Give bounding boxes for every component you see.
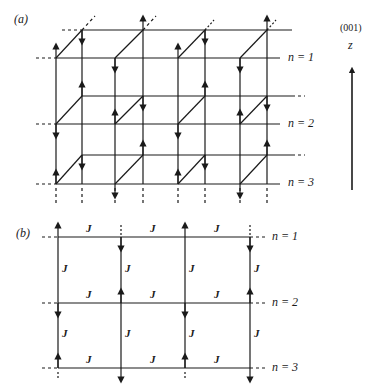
coupling-label: J	[254, 327, 260, 339]
panel-a-layer-2-label: n = 2	[288, 116, 314, 131]
panel-a-lattice	[36, 16, 305, 205]
coupling-label: J	[62, 262, 68, 274]
panel-b-layer-1-label: n = 1	[272, 229, 298, 244]
panel-b-layer-3-label: n = 3	[272, 360, 298, 375]
coupling-label: J	[150, 222, 156, 234]
coupling-label: J	[62, 327, 68, 339]
coupling-label: J	[86, 353, 92, 365]
coupling-label: J	[86, 288, 92, 300]
panel-a-layer-1-label: n = 1	[288, 50, 314, 65]
axis-direction-label: (001)	[340, 22, 362, 33]
panel-a-spins	[56, 18, 267, 196]
z-axis-label: z	[348, 38, 353, 53]
coupling-label: J	[189, 327, 195, 339]
panel-a-layer-3-label: n = 3	[288, 175, 314, 190]
panel-b-label: (b)	[16, 226, 30, 241]
coupling-label: J	[254, 262, 260, 274]
coupling-label: J	[214, 353, 220, 365]
coupling-label: J	[150, 353, 156, 365]
coupling-label: J	[150, 288, 156, 300]
panel-b-layer-2-label: n = 2	[272, 295, 298, 310]
coupling-label: J	[214, 222, 220, 234]
coupling-label: J	[86, 222, 92, 234]
coupling-label: J	[125, 262, 131, 274]
coupling-label: J	[125, 327, 131, 339]
coupling-label: J	[189, 262, 195, 274]
panel-a-label: (a)	[14, 12, 28, 27]
lattice-diagram	[0, 0, 373, 391]
coupling-label: J	[214, 288, 220, 300]
